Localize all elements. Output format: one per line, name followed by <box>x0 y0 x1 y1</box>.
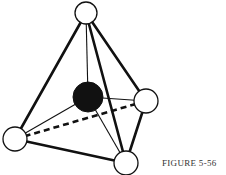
outer-atom-bottom <box>114 151 138 175</box>
edge-top-left <box>15 13 86 139</box>
edge-left-bottom <box>15 139 126 163</box>
outer-atom-left <box>3 127 27 151</box>
central-atom <box>73 82 103 112</box>
outer-atom-right <box>134 89 158 113</box>
tetrahedral-molecule-diagram <box>0 0 226 175</box>
figure-caption: FIGURE 5-56 <box>162 158 217 168</box>
outer-atom-top <box>75 2 97 24</box>
